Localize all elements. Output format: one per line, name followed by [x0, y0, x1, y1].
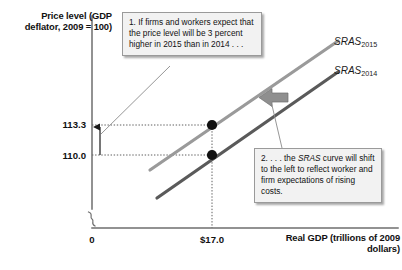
y-axis-break-icon — [89, 212, 96, 226]
curve-label-sras-2014-year: 2014 — [361, 69, 377, 78]
y-axis-title: Price level (GDP deflator, 2009 = 100) — [4, 10, 112, 32]
callout-box-2: 2. . . . the SRAS curve will shift to th… — [254, 148, 382, 203]
y-tick-label-110-0: 110.0 — [42, 150, 86, 161]
callout-2-text-before: 2. . . . the — [261, 153, 298, 163]
curve-label-sras-2015-base: SRAS — [334, 36, 361, 47]
callout-box-1: 1. If firms and workers expect that the … — [122, 12, 262, 56]
sras-shift-figure: Price level (GDP deflator, 2009 = 100) R… — [0, 0, 402, 270]
callout-2-text-italic: SRAS — [298, 153, 321, 163]
curve-label-sras-2014: SRAS2014 — [334, 65, 377, 77]
point-sras2015-at-17 — [207, 120, 217, 130]
callout-2-leader-line — [271, 101, 282, 148]
curve-label-sras-2015: SRAS2015 — [334, 36, 377, 48]
curve-label-sras-2014-base: SRAS — [334, 65, 361, 76]
curve-label-sras-2015-year: 2015 — [361, 40, 377, 49]
y-tick-label-113-3: 113.3 — [42, 119, 86, 130]
x-tick-label-origin: 0 — [82, 234, 102, 245]
x-tick-label-17-0: $17.0 — [188, 234, 236, 245]
callout-leader-lines — [101, 66, 282, 148]
callout-1-leader-line — [101, 66, 170, 134]
point-sras2014-at-17 — [207, 150, 217, 160]
x-axis-title: Real GDP (trillions of 2009 dollars) — [252, 232, 400, 254]
